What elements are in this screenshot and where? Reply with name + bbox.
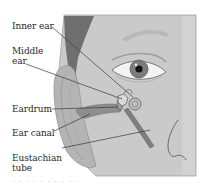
label-inner-ear: Inner ear <box>12 21 54 31</box>
label-eustachian-tube: Eustachian tube <box>12 153 62 173</box>
caption-fragment: · · · · · · · · · · <box>12 177 79 186</box>
label-eardrum: Eardrum <box>12 104 52 114</box>
label-eardrum-text: Eardrum <box>12 104 52 114</box>
label-ear-canal-text: Ear canal <box>12 128 55 138</box>
cochlea-shape <box>129 98 141 110</box>
label-inner-ear-text: Inner ear <box>12 21 54 31</box>
ear-anatomy-diagram: Inner ear Middle ear Eardrum Ear canal E… <box>0 0 209 186</box>
label-eustachian-tube-line2: tube <box>12 163 62 173</box>
label-ear-canal: Ear canal <box>12 128 55 138</box>
panel-highlight <box>182 16 195 175</box>
label-middle-ear-line1: Middle <box>12 46 43 56</box>
eye-pupil <box>135 65 142 72</box>
label-middle-ear: Middle ear <box>12 46 43 66</box>
label-middle-ear-line2: ear <box>12 56 43 66</box>
eye-reflection <box>135 64 138 67</box>
label-eustachian-tube-line1: Eustachian <box>12 153 62 163</box>
